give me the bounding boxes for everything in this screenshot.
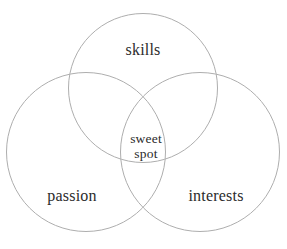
label-sweet-spot-line2: spot [116,146,176,161]
label-interests: interests [188,188,243,204]
venn-circles-group [0,0,287,249]
label-sweet-spot: sweet spot [116,131,176,161]
label-sweet-spot-line1: sweet [116,131,176,146]
label-skills: skills [126,42,161,58]
venn-diagram: skills sweet spot passion interests [0,0,287,249]
label-passion: passion [47,188,96,204]
